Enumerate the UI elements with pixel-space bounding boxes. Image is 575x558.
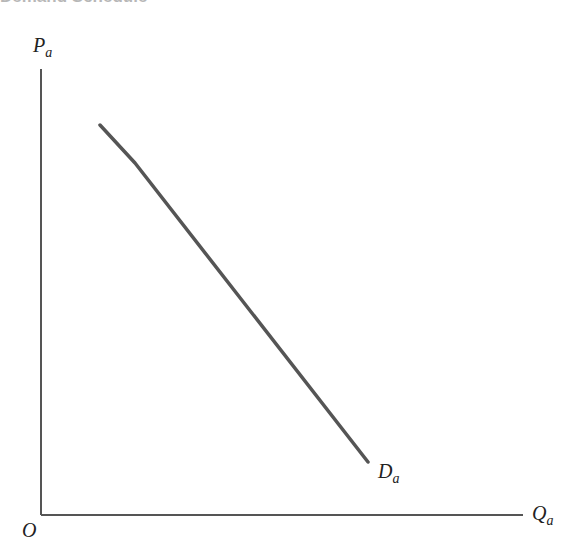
y-axis-label: Pa bbox=[32, 34, 52, 60]
demand-curve bbox=[100, 125, 368, 462]
origin-label: O bbox=[22, 519, 36, 541]
demand-chart: Demand Schedule Pa Da O Qa bbox=[0, 0, 575, 558]
curve-label: Da bbox=[377, 460, 399, 486]
x-axis-label: Qa bbox=[532, 502, 553, 528]
cropped-title: Demand Schedule bbox=[0, 0, 147, 6]
